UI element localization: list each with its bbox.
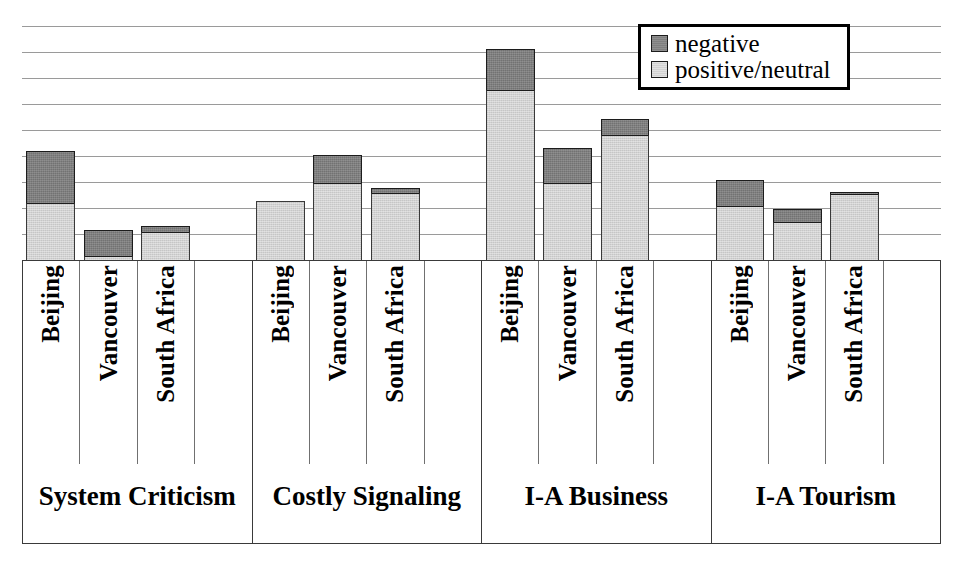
- x-axis-label-table: BeijingVancouverSouth AfricaSystem Criti…: [22, 260, 941, 544]
- bar-segment-positive: [371, 193, 420, 260]
- bar-segment-negative: [773, 209, 822, 222]
- axis-spacer-cell: [654, 261, 710, 464]
- bar-segment-positive: [716, 206, 765, 260]
- axis-city-cell-south-africa: South Africa: [138, 261, 195, 464]
- bar-segment-negative: [313, 155, 362, 183]
- chart-legend: negative positive/neutral: [638, 24, 850, 90]
- axis-group-label: I-A Business: [482, 464, 711, 543]
- axis-city-cell-beijing: Beijing: [482, 261, 539, 464]
- axis-group-i-a-tourism: BeijingVancouverSouth AfricaI-A Tourism: [712, 261, 941, 543]
- axis-city-cell-vancouver: Vancouver: [80, 261, 137, 464]
- legend-entry-negative: negative: [651, 31, 831, 57]
- bar-system-criticism-beijing: [26, 151, 75, 260]
- bar-segment-negative: [543, 148, 592, 183]
- axis-group-label: Costly Signaling: [253, 464, 482, 543]
- bar-segment-negative: [716, 180, 765, 206]
- axis-city-label: Beijing: [496, 261, 524, 343]
- bar-segment-positive: [313, 183, 362, 260]
- axis-spacer-cell: [195, 261, 251, 464]
- bar-i-a-tourism-vancouver: [773, 209, 822, 260]
- bar-segment-positive: [486, 90, 535, 260]
- axis-city-cell-beijing: Beijing: [253, 261, 310, 464]
- bar-segment-positive: [830, 194, 879, 260]
- axis-city-row: BeijingVancouverSouth Africa: [482, 261, 711, 464]
- legend-entry-positive: positive/neutral: [651, 57, 831, 83]
- bar-i-a-business-south-africa: [601, 119, 650, 260]
- axis-city-cell-beijing: Beijing: [23, 261, 80, 464]
- bar-i-a-business-vancouver: [543, 148, 592, 260]
- axis-city-label: Vancouver: [783, 261, 811, 381]
- axis-city-cell-south-africa: South Africa: [367, 261, 424, 464]
- bar-segment-negative: [601, 119, 650, 135]
- bar-segment-positive: [773, 222, 822, 260]
- axis-city-label: Beijing: [726, 261, 754, 343]
- bar-segment-negative: [84, 230, 133, 256]
- axis-spacer-cell: [425, 261, 481, 464]
- axis-city-label: Vancouver: [95, 261, 123, 381]
- axis-city-row: BeijingVancouverSouth Africa: [23, 261, 252, 464]
- bar-costly-signaling-vancouver: [313, 155, 362, 260]
- bar-system-criticism-vancouver: [84, 230, 133, 260]
- chart-container: negative positive/neutral BeijingVancouv…: [0, 0, 963, 570]
- axis-city-cell-south-africa: South Africa: [826, 261, 883, 464]
- axis-city-cell-vancouver: Vancouver: [769, 261, 826, 464]
- axis-city-label: South Africa: [840, 261, 868, 403]
- axis-city-label: Beijing: [267, 261, 295, 343]
- bar-segment-negative: [26, 151, 75, 203]
- bar-i-a-business-beijing: [486, 49, 535, 260]
- bar-costly-signaling-beijing: [256, 201, 305, 260]
- legend-swatch-negative-icon: [651, 35, 668, 52]
- axis-city-label: South Africa: [611, 261, 639, 403]
- axis-group-label: I-A Tourism: [712, 464, 941, 543]
- legend-label-negative: negative: [675, 31, 760, 57]
- bar-costly-signaling-south-africa: [371, 188, 420, 260]
- bar-system-criticism-south-africa: [141, 226, 190, 260]
- bar-i-a-tourism-south-africa: [830, 192, 879, 260]
- axis-city-cell-south-africa: South Africa: [597, 261, 654, 464]
- bar-i-a-tourism-beijing: [716, 180, 765, 260]
- axis-city-row: BeijingVancouverSouth Africa: [253, 261, 482, 464]
- axis-spacer-cell: [884, 261, 940, 464]
- axis-group-costly-signaling: BeijingVancouverSouth AfricaCostly Signa…: [253, 261, 483, 543]
- bar-segment-positive: [26, 203, 75, 260]
- axis-group-i-a-business: BeijingVancouverSouth AfricaI-A Business: [482, 261, 712, 543]
- legend-label-positive: positive/neutral: [675, 57, 831, 83]
- axis-city-label: Beijing: [37, 261, 65, 343]
- axis-group-system-criticism: BeijingVancouverSouth AfricaSystem Criti…: [23, 261, 253, 543]
- axis-city-label: Vancouver: [324, 261, 352, 381]
- axis-city-row: BeijingVancouverSouth Africa: [712, 261, 941, 464]
- axis-city-cell-vancouver: Vancouver: [539, 261, 596, 464]
- bar-segment-positive: [601, 135, 650, 260]
- bar-segment-negative: [486, 49, 535, 90]
- bar-segment-positive: [141, 232, 190, 260]
- legend-swatch-positive-icon: [651, 61, 668, 78]
- axis-city-cell-vancouver: Vancouver: [310, 261, 367, 464]
- bar-segment-positive: [543, 183, 592, 260]
- axis-city-label: South Africa: [152, 261, 180, 403]
- axis-city-label: South Africa: [381, 261, 409, 403]
- axis-city-label: Vancouver: [554, 261, 582, 381]
- bar-segment-positive: [256, 201, 305, 260]
- axis-group-label: System Criticism: [23, 464, 252, 543]
- axis-city-cell-beijing: Beijing: [712, 261, 769, 464]
